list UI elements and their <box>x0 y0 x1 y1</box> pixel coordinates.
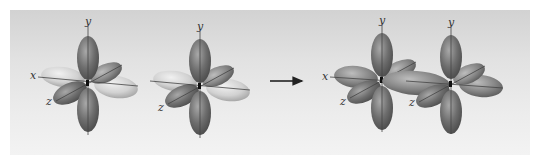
axis-label-z: z <box>339 95 346 108</box>
axis-label-z: z <box>408 96 415 109</box>
orbital-left-1: y x z <box>30 15 139 135</box>
axis-label-x: x <box>30 69 37 82</box>
axis-label-y: y <box>378 14 386 27</box>
axis-label-z: z <box>45 95 52 108</box>
orbital-diagram: y x z y z y x z <box>0 0 543 163</box>
axis-label-y: y <box>84 15 92 28</box>
axis-label-y: y <box>447 16 455 29</box>
axis-label-z: z <box>157 101 164 114</box>
axis-label-y: y <box>196 20 204 33</box>
orbital-left-2: y z <box>150 20 251 138</box>
axis-label-x: x <box>322 70 329 83</box>
